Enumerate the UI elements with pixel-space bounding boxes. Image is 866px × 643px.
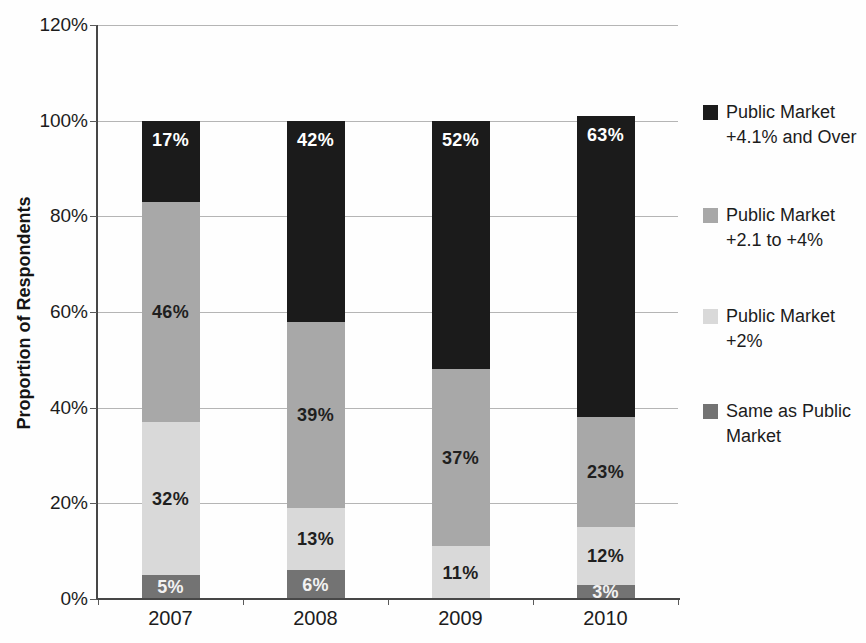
y-tick-label: 100% [24,110,88,132]
x-tick-label: 2007 [123,607,219,630]
bar-segment: 6% [287,570,345,599]
legend-item: Public Market+4.1% and Over [700,100,866,150]
bar-segment: 37% [432,369,490,546]
legend-label-line: Market [726,424,866,449]
bar-value-label: 6% [287,575,345,595]
x-tick-mark [533,600,534,605]
bar-value-label: 63% [577,125,635,145]
legend-label: Public Market+4.1% and Over [726,100,866,150]
legend-label: Same as PublicMarket [726,399,866,449]
bar-value-label: 13% [287,529,345,549]
plot-area: 5%32%46%17%6%13%39%42%11%37%52%3%12%23%6… [98,25,678,599]
y-tick-mark [90,312,97,313]
legend-item: Public Market+2% [700,304,866,354]
bar-value-label: 42% [287,130,345,150]
legend-label-line: +2.1 to +4% [726,228,866,253]
bar-value-label: 12% [577,546,635,566]
bar-value-label: 52% [432,130,490,150]
x-tick-label: 2010 [558,607,654,630]
y-tick-mark [90,408,97,409]
bar-segment: 23% [577,417,635,527]
x-tick-mark [388,600,389,605]
bar-segment: 63% [577,116,635,417]
y-tick-label: 0% [24,588,88,610]
legend-label: Public Market+2.1 to +4% [726,203,866,253]
bar-value-label: 23% [577,462,635,482]
x-tick-mark [98,600,99,605]
x-tick-label: 2009 [413,607,509,630]
y-tick-mark [90,503,97,504]
legend-swatch-icon [703,105,718,120]
y-tick-mark [90,121,97,122]
y-tick-label: 40% [24,397,88,419]
legend-swatch-icon [703,309,718,324]
x-tick-label: 2008 [268,607,364,630]
bar-value-label: 32% [142,489,200,509]
bar-segment: 17% [142,121,200,202]
bar-value-label: 11% [432,563,490,583]
bar-segment: 3% [577,585,635,599]
legend-label-line: Same as Public [726,399,866,424]
bar-segment: 11% [432,546,490,599]
bar-segment: 42% [287,121,345,322]
bar-segment: 39% [287,322,345,509]
x-tick-mark [243,600,244,605]
y-tick-label: 120% [24,14,88,36]
bar-segment: 12% [577,527,635,584]
y-tick-label: 80% [24,205,88,227]
bar-segment: 52% [432,121,490,370]
legend-label-line: +4.1% and Over [726,125,866,150]
bar-value-label: 39% [287,405,345,425]
gridline [98,25,678,26]
y-tick-label: 20% [24,492,88,514]
y-tick-mark [90,599,97,600]
y-tick-label: 60% [24,301,88,323]
x-tick-mark [678,600,679,605]
bar-value-label: 46% [142,302,200,322]
bar-segment: 46% [142,202,200,422]
legend-label-line: Public Market [726,203,866,228]
bar-value-label: 37% [432,448,490,468]
y-tick-mark [90,216,97,217]
legend-item: Public Market+2.1 to +4% [700,203,866,253]
legend-swatch-icon [703,208,718,223]
bar-segment: 32% [142,422,200,575]
bar-segment: 13% [287,508,345,570]
legend-item: Same as PublicMarket [700,399,866,449]
y-tick-mark [90,25,97,26]
legend-label-line: Public Market [726,100,866,125]
legend-label: Public Market+2% [726,304,866,354]
stacked-bar-chart: Proportion of Respondents 5%32%46%17%6%1… [0,0,866,643]
legend-label-line: +2% [726,329,866,354]
legend-label-line: Public Market [726,304,866,329]
bar-segment: 5% [142,575,200,599]
legend: Public Market+4.1% and OverPublic Market… [700,0,866,643]
legend-swatch-icon [703,404,718,419]
bar-value-label: 5% [142,577,200,597]
bar-value-label: 17% [142,130,200,150]
